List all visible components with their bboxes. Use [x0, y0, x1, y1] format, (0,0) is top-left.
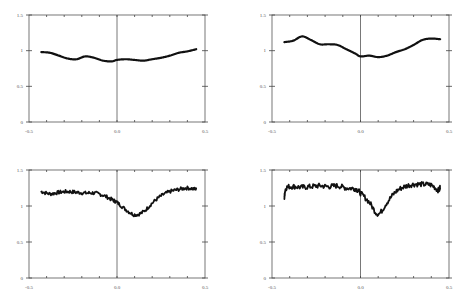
y-tick-label: 1.5 [17, 168, 24, 173]
y-tick-label: 0.5 [260, 84, 267, 89]
data-curve [41, 49, 196, 61]
y-tick-label: 0 [264, 120, 267, 125]
y-tick-label: 1 [21, 204, 24, 209]
y-tick-label: 1.5 [260, 13, 267, 18]
x-tick-label: -0.5 [25, 285, 33, 290]
data-curve [284, 36, 440, 57]
y-tick-label: 1.5 [17, 13, 24, 18]
data-curve [41, 186, 196, 216]
chart-panel-2: 00.511.5-0.50.00.5 [260, 13, 453, 134]
y-tick-label: 0 [21, 120, 24, 125]
y-tick-label: 0 [21, 276, 24, 281]
x-tick-label: 0.0 [114, 285, 121, 290]
x-tick-label: -0.5 [25, 129, 33, 134]
chart-panel-4: 00.511.5-0.50.00.5 [260, 168, 453, 290]
y-tick-label: 1 [264, 204, 267, 209]
y-tick-label: 0.5 [17, 84, 24, 89]
x-tick-label: 0.0 [357, 129, 364, 134]
x-tick-label: 0.0 [357, 285, 364, 290]
x-tick-label: 0.5 [202, 285, 209, 290]
y-tick-label: 1 [264, 48, 267, 53]
x-tick-label: 0.5 [446, 129, 453, 134]
y-tick-label: 0.5 [17, 240, 24, 245]
x-tick-label: 0.0 [114, 129, 121, 134]
x-tick-label: -0.5 [268, 129, 276, 134]
figure-canvas: 00.511.5-0.50.00.500.511.5-0.50.00.500.5… [0, 0, 461, 301]
y-tick-label: 0.5 [260, 240, 267, 245]
y-tick-label: 0 [264, 276, 267, 281]
y-tick-label: 1.5 [260, 168, 267, 173]
chart-panel-1: 00.511.5-0.50.00.5 [17, 13, 209, 134]
x-tick-label: -0.5 [268, 285, 276, 290]
x-tick-label: 0.5 [446, 285, 453, 290]
y-tick-label: 1 [21, 48, 24, 53]
chart-panel-3: 00.511.5-0.50.00.5 [17, 168, 209, 290]
data-curve [284, 182, 440, 216]
x-tick-label: 0.5 [202, 129, 209, 134]
